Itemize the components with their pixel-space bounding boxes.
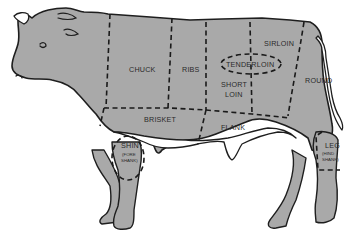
- label-leg: LEG: [325, 141, 340, 150]
- label-leg-sub-1: (HIND: [322, 151, 334, 156]
- label-shin-sub-1: (FORE: [122, 152, 136, 157]
- label-brisket: BRISKET: [144, 115, 177, 124]
- label-chuck: CHUCK: [129, 65, 156, 74]
- horn: [14, 13, 29, 24]
- label-short-loin-1: SHORT: [221, 80, 247, 89]
- label-sirloin: SIRLOIN: [264, 39, 294, 48]
- label-flank: FLANK: [221, 123, 245, 132]
- label-ribs: RIBS: [182, 65, 200, 74]
- label-shin-sub-2: SHANK): [121, 158, 138, 163]
- beef-cuts-diagram: CHUCK RIBS SIRLOIN TENDERLOIN SHORT LOIN…: [0, 0, 358, 244]
- label-short-loin-2: LOIN: [225, 90, 243, 99]
- far-hind-leg: [268, 150, 306, 228]
- nostril: [16, 75, 22, 78]
- label-leg-sub-2: SHANK): [322, 157, 339, 162]
- label-round: ROUND: [305, 76, 332, 85]
- label-shin: SHIN: [121, 141, 139, 150]
- label-tenderloin: TENDERLOIN: [226, 60, 274, 69]
